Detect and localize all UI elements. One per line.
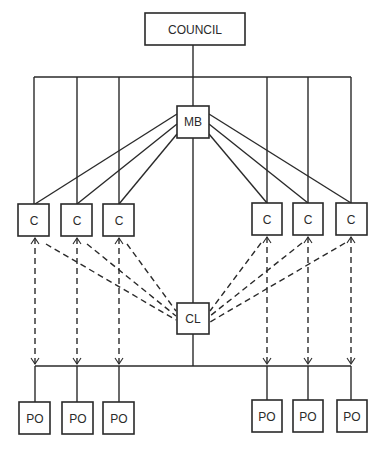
council-label: COUNCIL [168,23,222,37]
cl-node: CL [177,303,209,334]
program-office-node-2: PO [62,402,93,434]
committee-label: C [73,214,82,228]
program-office-label: PO [69,412,86,426]
c4-bus-arrow [263,237,271,364]
c5-bus-arrow [304,237,312,364]
committee-label: C [30,214,39,228]
c6-to-cl-dashed-line [210,243,345,322]
committee-label: C [304,213,313,227]
committee-node-6: C [336,203,367,235]
committee-node-2: C [61,204,92,236]
program-office-label: PO [299,410,316,424]
committee-label: C [263,213,272,227]
org-diagram: COUNCIL MB CL C C C C C C PO PO [0,0,382,450]
mb-to-c5-line [209,124,308,203]
c5-to-cl-dashed-line [210,243,302,316]
committee-label: C [347,213,356,227]
program-office-node-4: PO [252,400,282,432]
c2-to-cl-dashed-line [87,244,176,316]
mb-to-c2-line [77,124,177,204]
committee-label: C [115,214,124,228]
program-office-node-3: PO [103,402,134,434]
c2-bus-arrow [73,238,81,364]
program-office-node-5: PO [293,400,323,432]
cl-label: CL [185,312,201,326]
c3-to-cl-dashed-line [127,244,176,311]
c4-to-cl-dashed-line [210,243,261,311]
c1-to-cl-dashed-line [46,244,176,320]
program-office-node-6: PO [337,400,367,432]
committee-node-3: C [103,204,134,236]
committee-node-5: C [293,203,323,235]
program-office-label: PO [343,410,360,424]
program-office-node-1: PO [19,402,50,434]
c3-bus-arrow [115,238,123,364]
c6-bus-arrow [347,237,355,364]
program-office-label: PO [258,410,275,424]
mb-node: MB [177,106,209,138]
mb-label: MB [184,115,202,129]
c1-bus-arrow [31,238,39,364]
committee-node-1: C [18,204,49,236]
program-office-label: PO [110,412,127,426]
program-office-label: PO [26,412,43,426]
committee-node-4: C [252,203,282,235]
council-node: COUNCIL [145,13,245,45]
